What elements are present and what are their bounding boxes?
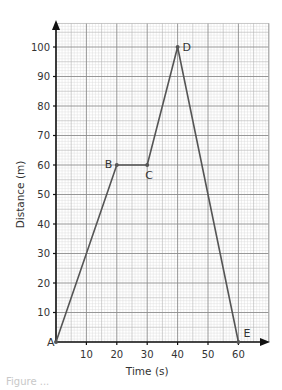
point-label-b: B bbox=[105, 158, 113, 171]
x-axis-title: Time (s) bbox=[125, 365, 169, 377]
y-tick-label: 20 bbox=[37, 278, 50, 289]
y-tick-label: 90 bbox=[37, 71, 50, 82]
point-label-c: C bbox=[145, 169, 153, 182]
data-point-a bbox=[54, 340, 58, 344]
point-label-d: D bbox=[183, 41, 191, 54]
x-tick-label: 20 bbox=[110, 349, 123, 360]
data-point-b bbox=[115, 163, 119, 167]
y-tick-label: 30 bbox=[37, 248, 50, 259]
y-axis-title: Distance (m) bbox=[14, 161, 26, 229]
x-tick-label: 50 bbox=[202, 349, 215, 360]
y-tick-label: 60 bbox=[37, 160, 50, 171]
y-tick-label: 40 bbox=[37, 219, 50, 230]
y-tick-label: 10 bbox=[37, 307, 50, 318]
distance-time-chart: 102030405060102030405060708090100 Time (… bbox=[0, 0, 282, 390]
data-point-e bbox=[236, 340, 240, 344]
data-point-d bbox=[176, 45, 180, 49]
x-tick-label: 60 bbox=[232, 349, 245, 360]
point-label-a: A bbox=[47, 336, 55, 349]
figure-caption: Figure ... bbox=[6, 376, 49, 387]
x-tick-label: 10 bbox=[80, 349, 93, 360]
y-axis-arrow-icon bbox=[52, 20, 60, 30]
axes bbox=[52, 20, 270, 346]
x-tick-label: 30 bbox=[141, 349, 154, 360]
point-label-e: E bbox=[243, 327, 250, 340]
data-point-c bbox=[145, 163, 149, 167]
x-tick-label: 40 bbox=[171, 349, 184, 360]
y-tick-label: 80 bbox=[37, 101, 50, 112]
y-tick-label: 100 bbox=[31, 42, 50, 53]
y-tick-label: 50 bbox=[37, 189, 50, 200]
y-tick-label: 70 bbox=[37, 130, 50, 141]
